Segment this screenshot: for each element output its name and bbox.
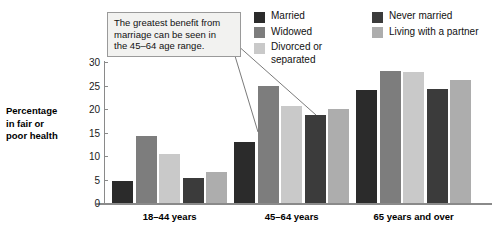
legend-label-never-married: Never married bbox=[389, 10, 452, 23]
plot-area bbox=[104, 62, 488, 203]
bar-never-married-3[interactable] bbox=[427, 89, 448, 203]
bar-married-2[interactable] bbox=[234, 142, 255, 203]
callout-line-1: The greatest benefit from bbox=[114, 17, 235, 29]
legend-label-living-with-a-partner: Living with a partner bbox=[389, 26, 479, 39]
bar-group-1 bbox=[112, 62, 228, 203]
x-axis-label-1: 18–44 years bbox=[143, 211, 197, 222]
y-tick-mark-5 bbox=[104, 180, 108, 181]
bar-never-married-2[interactable] bbox=[305, 115, 326, 203]
legend: Married Widowed Divorced or separated Ne… bbox=[254, 10, 500, 68]
legend-swatch-living-with-a-partner bbox=[372, 27, 383, 38]
x-axis-label-2: 45–64 years bbox=[265, 211, 319, 222]
bar-divorced-or-separated-3[interactable] bbox=[403, 72, 424, 203]
bar-living-with-a-partner-2[interactable] bbox=[328, 109, 349, 203]
legend-column-2: Never married Living with a partner bbox=[372, 10, 500, 41]
legend-label-divorced-or-separated: Divorced or separated bbox=[271, 41, 362, 66]
y-tick-mark-0 bbox=[104, 203, 108, 204]
bar-divorced-or-separated-1[interactable] bbox=[159, 154, 180, 203]
y-tick-label-5: 5 bbox=[74, 174, 100, 185]
callout-line-3: the 45–64 age range. bbox=[114, 40, 235, 52]
bar-widowed-1[interactable] bbox=[136, 136, 157, 203]
bar-married-1[interactable] bbox=[112, 181, 133, 203]
legend-swatch-never-married bbox=[372, 12, 383, 23]
callout-line-2: marriage can be seen in bbox=[114, 29, 235, 41]
legend-swatch-widowed bbox=[254, 27, 265, 38]
y-tick-label-0: 0 bbox=[74, 198, 100, 209]
y-tick-label-15: 15 bbox=[74, 127, 100, 138]
y-tick-mark-25 bbox=[104, 86, 108, 87]
bar-group-2 bbox=[234, 62, 350, 203]
y-tick-mark-15 bbox=[104, 133, 108, 134]
y-tick-mark-20 bbox=[104, 109, 108, 110]
y-tick-label-30: 30 bbox=[74, 57, 100, 68]
legend-item-never-married[interactable]: Never married bbox=[372, 10, 500, 23]
bar-never-married-1[interactable] bbox=[183, 178, 204, 203]
y-tick-mark-30 bbox=[104, 62, 108, 63]
bar-group-3 bbox=[356, 62, 472, 203]
y-tick-label-10: 10 bbox=[74, 151, 100, 162]
x-axis-label-3: 65 years and over bbox=[374, 211, 454, 222]
legend-swatch-married bbox=[254, 12, 265, 23]
bar-living-with-a-partner-1[interactable] bbox=[206, 172, 227, 203]
legend-item-married[interactable]: Married bbox=[254, 10, 362, 23]
legend-item-widowed[interactable]: Widowed bbox=[254, 26, 362, 39]
legend-item-living-with-a-partner[interactable]: Living with a partner bbox=[372, 26, 500, 39]
y-axis-ticks: 302520151050 bbox=[70, 62, 100, 203]
legend-item-divorced-or-separated[interactable]: Divorced or separated bbox=[254, 41, 362, 66]
legend-label-widowed: Widowed bbox=[271, 26, 312, 39]
bar-widowed-3[interactable] bbox=[380, 71, 401, 203]
y-tick-mark-10 bbox=[104, 156, 108, 157]
legend-label-married: Married bbox=[271, 10, 305, 23]
y-tick-label-25: 25 bbox=[74, 80, 100, 91]
chart-figure: Percentage in fair or poor health 302520… bbox=[0, 0, 503, 237]
x-axis-line bbox=[96, 203, 492, 205]
legend-swatch-divorced-or-separated bbox=[254, 43, 265, 54]
bar-married-3[interactable] bbox=[356, 90, 377, 203]
y-tick-label-20: 20 bbox=[74, 104, 100, 115]
legend-column-1: Married Widowed Divorced or separated bbox=[254, 10, 362, 69]
callout-annotation: The greatest benefit from marriage can b… bbox=[107, 12, 241, 57]
bar-divorced-or-separated-2[interactable] bbox=[281, 106, 302, 203]
bar-living-with-a-partner-3[interactable] bbox=[450, 80, 471, 203]
bar-widowed-2[interactable] bbox=[258, 86, 279, 203]
